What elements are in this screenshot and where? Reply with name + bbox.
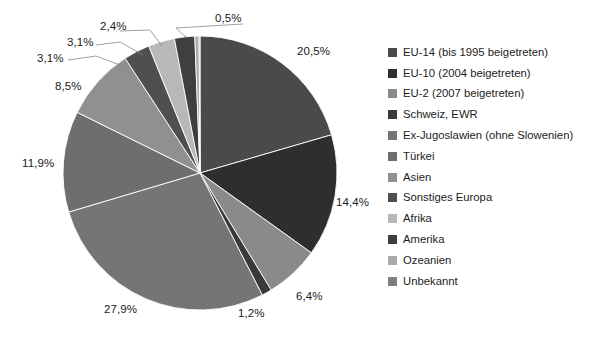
pie-slice-percent-label: 3,1%	[67, 36, 94, 48]
legend-item-label: Afrika	[403, 213, 432, 224]
legend-swatch-icon	[388, 69, 397, 78]
legend-swatch-icon	[388, 256, 397, 265]
legend-item[interactable]: EU-10 (2004 beigetreten)	[388, 63, 590, 84]
pie-slice-percent-label: 1,2%	[238, 307, 265, 319]
pie-slice-percent-label: 27,9%	[104, 303, 137, 315]
legend-item-label: Asien	[403, 172, 431, 183]
legend-item[interactable]: Unbekannt	[388, 271, 590, 292]
legend-item[interactable]: Ex-Jugoslawien (ohne Slowenien)	[388, 125, 590, 146]
legend-item-label: EU-2 (2007 beigetreten)	[403, 88, 524, 99]
legend-swatch-icon	[388, 277, 397, 286]
pie-slice-percent-label: 3,1%	[37, 52, 64, 64]
pie-chart-area: 20,5%14,4%6,4%1,2%27,9%11,9%8,5%3,1%3,1%…	[0, 0, 380, 344]
legend-item-label: Unbekannt	[403, 276, 458, 287]
legend-item[interactable]: Sonstiges Europa	[388, 188, 590, 209]
legend-item[interactable]: Asien	[388, 167, 590, 188]
pie-chart-figure: 20,5%14,4%6,4%1,2%27,9%11,9%8,5%3,1%3,1%…	[0, 0, 592, 344]
legend-swatch-icon	[388, 214, 397, 223]
chart-legend: EU-14 (bis 1995 beigetreten)EU-10 (2004 …	[388, 42, 590, 292]
legend-swatch-icon	[388, 89, 397, 98]
pie-slice-percent-label: 8,5%	[55, 80, 82, 92]
legend-item-label: Schweiz, EWR	[403, 109, 478, 120]
legend-item[interactable]: Türkei	[388, 146, 590, 167]
pie-slice-percent-label: 0,5%	[215, 12, 242, 24]
legend-item[interactable]: EU-2 (2007 beigetreten)	[388, 84, 590, 105]
legend-item-label: EU-14 (bis 1995 beigetreten)	[403, 47, 548, 58]
legend-item-label: Ex-Jugoslawien (ohne Slowenien)	[403, 130, 573, 141]
legend-swatch-icon	[388, 193, 397, 202]
legend-item[interactable]: EU-14 (bis 1995 beigetreten)	[388, 42, 590, 63]
legend-item-label: Ozeanien	[403, 255, 451, 266]
legend-item[interactable]: Ozeanien	[388, 250, 590, 271]
legend-item[interactable]: Afrika	[388, 208, 590, 229]
legend-item[interactable]: Amerika	[388, 229, 590, 250]
legend-item-label: EU-10 (2004 beigetreten)	[403, 68, 530, 79]
legend-item[interactable]: Schweiz, EWR	[388, 104, 590, 125]
pie-slice-percent-label: 20,5%	[297, 45, 330, 57]
legend-swatch-icon	[388, 152, 397, 161]
legend-swatch-icon	[388, 173, 397, 182]
legend-swatch-icon	[388, 131, 397, 140]
pie-leader-line	[176, 24, 243, 37]
legend-item-label: Sonstiges Europa	[403, 192, 492, 203]
pie-slice-percent-label: 6,4%	[296, 290, 323, 302]
pie-slice-percent-label: 11,9%	[22, 157, 54, 169]
pie-slice-percent-label: 2,4%	[100, 20, 127, 32]
legend-item-label: Türkei	[403, 151, 434, 162]
legend-swatch-icon	[388, 48, 397, 57]
pie-slice-percent-label: 14,4%	[336, 196, 369, 208]
legend-swatch-icon	[388, 110, 397, 119]
legend-swatch-icon	[388, 235, 397, 244]
legend-item-label: Amerika	[403, 234, 444, 245]
